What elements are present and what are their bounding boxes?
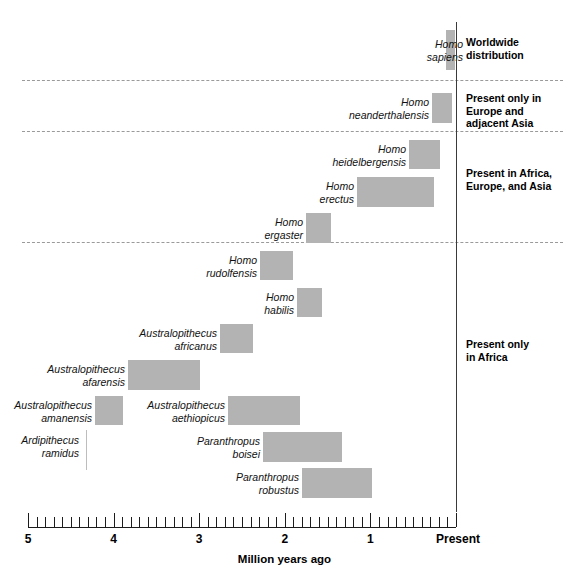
- species-label-homo-heidelbergensis: Homo heidelbergensis: [0, 143, 406, 168]
- range-bar-australopithecus-afarensis: [128, 360, 200, 390]
- axis-tick-1.0: [370, 513, 371, 527]
- species-label-paranthropus-boisei: Paranthropus boisei: [0, 435, 260, 460]
- axis-tick-0.6: [405, 517, 406, 527]
- distribution-caption-2: Present in Africa, Europe, and Asia: [466, 167, 566, 192]
- range-bar-paranthropus-robustus: [302, 468, 372, 498]
- range-bar-australopithecus-africanus: [220, 324, 253, 353]
- axis-tick-4.4: [79, 517, 80, 527]
- axis-tick-3.7: [139, 517, 140, 527]
- axis-tick-4.9: [37, 517, 38, 527]
- species-label-homo-neanderthalensis: Homo neanderthalensis: [0, 96, 429, 121]
- axis-tick-0.2: [439, 517, 440, 527]
- axis-tick-1.4: [336, 517, 337, 527]
- axis-tick-0.1: [447, 517, 448, 527]
- axis-tick-4.2: [96, 517, 97, 527]
- range-bar-australopithecus-aethiopicus: [228, 396, 300, 425]
- time-axis: 54321Present Million years ago: [0, 505, 569, 572]
- species-label-australopithecus-aethiopicus: Australopithecus aethiopicus: [0, 399, 225, 424]
- axis-baseline: [28, 527, 456, 528]
- range-bar-homo-neanderthalensis: [432, 93, 452, 123]
- axis-tick-0.9: [379, 517, 380, 527]
- axis-tick-3.2: [182, 517, 183, 527]
- axis-tick-0.3: [430, 517, 431, 527]
- axis-tick-4.8: [45, 517, 46, 527]
- species-label-homo-habilis: Homo habilis: [0, 291, 294, 316]
- hominin-timeline-figure: Homo sapiensHomo neanderthalensisHomo he…: [0, 0, 569, 572]
- axis-tick-label-5: 5: [25, 532, 32, 546]
- axis-tick-1.7: [310, 517, 311, 527]
- axis-tick-1.8: [302, 517, 303, 527]
- species-label-homo-sapiens: Homo sapiens: [0, 38, 463, 63]
- axis-tick-1.2: [353, 517, 354, 527]
- species-label-paranthropus-robustus: Paranthropus robustus: [0, 471, 299, 496]
- axis-tick-3.8: [131, 517, 132, 527]
- range-bar-homo-ergaster: [306, 213, 331, 243]
- species-label-australopithecus-africanus: Australopithecus africanus: [0, 327, 217, 352]
- axis-tick-1.9: [293, 517, 294, 527]
- range-bar-homo-heidelbergensis: [409, 140, 440, 169]
- axis-tick-label-4: 4: [110, 532, 117, 546]
- axis-tick-4.0: [114, 513, 115, 527]
- axis-tick-2.8: [216, 517, 217, 527]
- axis-tick-label-1: 1: [367, 532, 374, 546]
- axis-tick-2.4: [251, 517, 252, 527]
- present-axis-line: [456, 22, 457, 512]
- axis-tick-2.5: [242, 517, 243, 527]
- species-label-homo-erectus: Homo erectus: [0, 180, 354, 205]
- axis-tick-3.6: [148, 517, 149, 527]
- axis-tick-0.4: [422, 517, 423, 527]
- axis-tick-3.0: [199, 513, 200, 527]
- axis-tick-2.3: [259, 517, 260, 527]
- axis-tick-3.5: [156, 517, 157, 527]
- distribution-caption-0: Worldwide distribution: [466, 36, 566, 61]
- axis-title: Million years ago: [0, 553, 569, 565]
- axis-tick-5.0: [28, 513, 29, 527]
- axis-tick-4.5: [71, 517, 72, 527]
- range-bar-paranthropus-boisei: [263, 432, 342, 462]
- axis-tick-0.7: [396, 517, 397, 527]
- axis-tick-0.5: [413, 517, 414, 527]
- axis-tick-label-2: 2: [281, 532, 288, 546]
- range-bar-homo-erectus: [357, 177, 434, 207]
- axis-tick-1.5: [328, 517, 329, 527]
- axis-present-label: Present: [436, 532, 480, 546]
- axis-tick-3.4: [165, 517, 166, 527]
- distribution-caption-3: Present only in Africa: [466, 338, 566, 363]
- axis-tick-1.6: [319, 517, 320, 527]
- axis-tick-1.1: [362, 517, 363, 527]
- axis-tick-2.2: [268, 517, 269, 527]
- axis-tick-3.9: [122, 517, 123, 527]
- axis-tick-4.7: [54, 517, 55, 527]
- distribution-caption-1: Present only in Europe and adjacent Asia: [466, 92, 566, 130]
- axis-tick-2.0: [285, 513, 286, 527]
- axis-tick-4.1: [105, 517, 106, 527]
- range-bar-homo-habilis: [297, 288, 322, 317]
- axis-tick-2.6: [233, 517, 234, 527]
- axis-tick-2.7: [225, 517, 226, 527]
- axis-tick-label-3: 3: [196, 532, 203, 546]
- axis-tick-0.8: [388, 517, 389, 527]
- axis-tick-2.1: [276, 517, 277, 527]
- species-label-homo-rudolfensis: Homo rudolfensis: [0, 254, 257, 279]
- group-separator-1: [22, 131, 563, 132]
- species-label-australopithecus-afarensis: Australopithecus afarensis: [0, 363, 125, 388]
- axis-tick-2.9: [208, 517, 209, 527]
- axis-tick-3.3: [174, 517, 175, 527]
- axis-tick-1.3: [345, 517, 346, 527]
- range-bar-homo-rudolfensis: [260, 251, 293, 280]
- axis-tick-4.3: [88, 517, 89, 527]
- species-label-homo-ergaster: Homo ergaster: [0, 216, 303, 241]
- axis-tick-0.0: [456, 513, 457, 527]
- group-separator-0: [22, 80, 563, 81]
- axis-tick-4.6: [62, 517, 63, 527]
- axis-tick-3.1: [191, 517, 192, 527]
- group-separator-2: [22, 242, 563, 243]
- plot-area: Homo sapiensHomo neanderthalensisHomo he…: [0, 0, 569, 505]
